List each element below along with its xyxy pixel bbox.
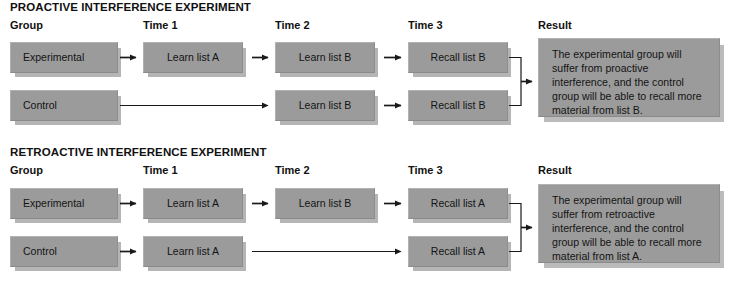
column-header-time-1: Time 1 xyxy=(143,164,178,176)
node-control-time-3: Recall list B xyxy=(408,90,508,121)
column-header-time-2: Time 2 xyxy=(275,19,310,31)
node-experimental-time-2: Learn list B xyxy=(275,188,375,219)
node-group-control: Control xyxy=(10,90,118,121)
column-header-result: Result xyxy=(538,19,572,31)
column-header-time-2: Time 2 xyxy=(275,164,310,176)
retroactive-experiment-title: RETROACTIVE INTERFERENCE EXPERIMENT xyxy=(10,146,267,158)
column-header-group: Group xyxy=(10,19,43,31)
proactive-experiment-title: PROACTIVE INTERFERENCE EXPERIMENT xyxy=(10,1,251,13)
node-experimental-time-2: Learn list B xyxy=(275,42,375,73)
node-control-time-3: Recall list A xyxy=(408,236,508,267)
proactive-interference-experiment: PROACTIVE INTERFERENCE EXPERIMENT Group … xyxy=(0,0,738,145)
node-experimental-time-3: Recall list A xyxy=(408,188,508,219)
column-header-time-3: Time 3 xyxy=(408,164,443,176)
node-group-control: Control xyxy=(10,236,118,267)
node-result-retroactive: The experimental group will suffer from … xyxy=(538,184,720,263)
column-header-time-3: Time 3 xyxy=(408,19,443,31)
node-result-proactive: The experimental group will suffer from … xyxy=(538,38,720,117)
retroactive-interference-experiment: RETROACTIVE INTERFERENCE EXPERIMENT Grou… xyxy=(0,145,738,284)
column-header-time-1: Time 1 xyxy=(143,19,178,31)
node-experimental-time-1: Learn list A xyxy=(143,42,243,73)
column-header-group: Group xyxy=(10,164,43,176)
node-control-time-1: Learn list A xyxy=(143,236,243,267)
node-group-experimental: Experimental xyxy=(10,188,118,219)
node-group-experimental: Experimental xyxy=(10,42,118,73)
node-control-time-2: Learn list B xyxy=(275,90,375,121)
node-experimental-time-1: Learn list A xyxy=(143,188,243,219)
node-experimental-time-3: Recall list B xyxy=(408,42,508,73)
column-header-result: Result xyxy=(538,164,572,176)
